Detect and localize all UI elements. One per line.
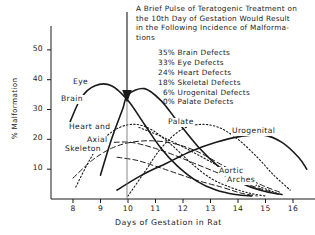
defect-label: Urogenital Defects <box>175 88 250 97</box>
x-tick-label: 11 <box>148 205 164 214</box>
y-tick-label: 10 <box>21 164 43 173</box>
curve-label-urogenital: Urogenital <box>231 127 276 136</box>
annotation-line-2: in the Following Incidence of Malforma- <box>136 23 312 33</box>
annotation-line-1: the 10th Day of Gestation Would Result <box>136 14 312 24</box>
x-tick-marks <box>73 199 293 203</box>
y-tick-label: 20 <box>21 134 43 143</box>
curve-label-palate: Palate <box>167 118 195 127</box>
defect-percent: 35% <box>152 48 175 58</box>
defect-label: Skeletal Defects <box>175 78 241 87</box>
y-tick-label: 40 <box>21 75 43 84</box>
defect-percent: 33% <box>152 58 175 68</box>
defect-label: Eye Defects <box>175 58 224 67</box>
defect-list-item: 24% Heart Defects <box>136 68 312 78</box>
curve-label-skeleton: Skeleton <box>64 145 102 154</box>
annotation-line-0: A Brief Pulse of Teratogenic Treatment o… <box>136 4 312 14</box>
x-tick-label: 15 <box>258 205 274 214</box>
defect-list-item: 18% Skeletal Defects <box>136 78 312 88</box>
defect-percent: 6% <box>152 88 175 98</box>
teratogenic-malformation-chart: A Brief Pulse of Teratogenic Treatment o… <box>0 0 315 235</box>
annotation-text-block: A Brief Pulse of Teratogenic Treatment o… <box>136 4 312 107</box>
annotation-line-3: tions <box>136 33 312 43</box>
defect-list-item: 6% Urogenital Defects <box>136 88 312 98</box>
defect-incidence-list: 35% Brain Defects33% Eye Defects24% Hear… <box>136 48 312 108</box>
defect-percent: 24% <box>152 68 175 78</box>
x-tick-label: 10 <box>120 205 136 214</box>
defect-label: Palate Defects <box>175 97 234 106</box>
curve-label-heart-and: Heart and <box>68 123 111 132</box>
defect-list-item: 33% Eye Defects <box>136 58 312 68</box>
x-tick-label: 14 <box>230 205 246 214</box>
y-axis-title: % Malformation <box>10 71 19 147</box>
y-tick-label: 30 <box>21 105 43 114</box>
x-axis-title: Days of Gestation in Rat <box>115 218 222 227</box>
y-tick-label: 50 <box>21 45 43 54</box>
defect-label: Brain Defects <box>175 48 230 57</box>
y-tick-marks <box>47 50 51 169</box>
curve-label-eye: Eye <box>72 78 89 87</box>
x-tick-label: 8 <box>65 205 81 214</box>
defect-percent: 18% <box>152 78 175 88</box>
x-tick-label: 12 <box>175 205 191 214</box>
defect-list-item: 0% Palate Defects <box>136 97 312 107</box>
defect-percent: 0% <box>152 97 175 107</box>
x-tick-label: 13 <box>203 205 219 214</box>
curve-label-brain: Brain <box>60 95 84 104</box>
curve-label-arches: Arches <box>226 176 256 185</box>
x-tick-label: 9 <box>93 205 109 214</box>
defect-list-item: 35% Brain Defects <box>136 48 312 58</box>
defect-label: Heart Defects <box>175 68 231 77</box>
x-tick-label: 16 <box>285 205 301 214</box>
